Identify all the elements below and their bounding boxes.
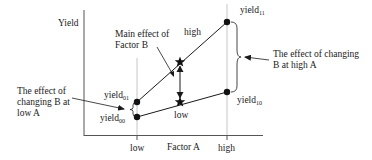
- high-a-effect-label: The effect of changing B at high A: [273, 49, 359, 71]
- star-icon-high-midpoint: [175, 57, 186, 67]
- high-a-effect-line1: The effect of changing: [273, 49, 359, 60]
- x-tick-label-high: high: [218, 143, 235, 154]
- interaction-plot: [0, 0, 372, 160]
- x-axis-label: Factor A: [167, 142, 200, 153]
- brace-high-a: [231, 22, 241, 92]
- main-effect-label-line1: Main effect of: [115, 29, 169, 40]
- high-a-effect-line2: B at high A: [273, 60, 359, 71]
- y-axis-label: Yield: [58, 18, 79, 29]
- line-label-low: low: [174, 110, 188, 121]
- low-a-effect-label: The effect of changing B at low A: [17, 86, 70, 119]
- low-a-effect-line3: low A: [17, 108, 70, 119]
- point-yield11: [224, 19, 230, 25]
- high-a-pointer: [245, 57, 269, 60]
- low-a-effect-line1: The effect of: [17, 86, 70, 97]
- main-effect-label-line2: Factor B: [115, 40, 169, 51]
- label-yield10: yield10: [237, 95, 262, 109]
- point-yield10: [224, 89, 230, 95]
- line-label-high: high: [184, 27, 201, 38]
- label-yield00: yield00: [100, 113, 125, 127]
- x-tick-label-low: low: [130, 143, 144, 154]
- main-effect-label: Main effect of Factor B: [115, 29, 169, 51]
- label-yield01: yield01: [104, 90, 129, 104]
- label-yield11: yield11: [240, 5, 265, 19]
- low-a-effect-line2: changing B at: [17, 97, 70, 108]
